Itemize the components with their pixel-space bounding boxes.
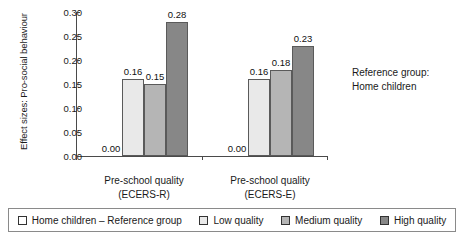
bar-value-label: 0.28: [162, 9, 192, 20]
legend-label: Low quality: [213, 215, 263, 226]
bar: [144, 84, 166, 156]
bar-chart-figure: Effect sizes: Pro-social behaviour 0.000…: [0, 0, 464, 242]
y-tick-label: 0.20: [30, 55, 82, 65]
y-tick-mark: [76, 84, 80, 85]
legend-label: High quality: [394, 215, 446, 226]
legend-swatch-icon: [380, 216, 389, 225]
bar: [270, 70, 292, 156]
legend-item: Medium quality: [281, 215, 362, 226]
bar-value-label: 0.23: [288, 33, 318, 44]
legend-label: Medium quality: [295, 215, 362, 226]
y-tick-label: 0.15: [30, 79, 82, 89]
x-category-line-1: Pre-school quality: [195, 174, 345, 188]
y-tick-label: 0.00: [30, 151, 82, 161]
y-tick-mark: [76, 132, 80, 133]
y-tick-label: 0.30: [30, 7, 82, 17]
y-tick-label: 0.05: [30, 127, 82, 137]
y-axis-title: Effect sizes: Pro-social behaviour: [18, 0, 29, 167]
legend-swatch-icon: [281, 216, 290, 225]
x-category-line-2: (ECERS-E): [195, 188, 345, 202]
reference-group-annotation: Reference group: Home children: [352, 66, 429, 94]
annotation-line-2: Home children: [352, 80, 429, 94]
bar: [122, 79, 144, 156]
bar: [292, 46, 314, 156]
legend-item: Home children – Reference group: [18, 215, 182, 226]
x-category-label: Pre-school quality(ECERS-E): [195, 174, 345, 202]
y-tick-mark: [76, 12, 80, 13]
legend-swatch-icon: [18, 216, 27, 225]
bar: [166, 22, 188, 156]
legend-item: High quality: [380, 215, 446, 226]
y-tick-label: 0.10: [30, 103, 82, 113]
y-tick-label: 0.25: [30, 31, 82, 41]
x-tick-mark: [327, 156, 328, 160]
chart-legend: Home children – Reference groupLow quali…: [8, 208, 456, 232]
legend-label: Home children – Reference group: [32, 215, 182, 226]
y-tick-mark: [76, 36, 80, 37]
annotation-line-1: Reference group:: [352, 66, 429, 80]
y-tick-mark: [76, 108, 80, 109]
x-tick-mark: [76, 156, 77, 160]
bar: [248, 79, 270, 156]
legend-swatch-icon: [199, 216, 208, 225]
y-tick-mark: [76, 60, 80, 61]
x-tick-mark: [202, 156, 203, 160]
plot-area: 0.000.050.100.150.200.250.30 0.000.160.1…: [76, 12, 328, 156]
legend-item: Low quality: [199, 215, 263, 226]
